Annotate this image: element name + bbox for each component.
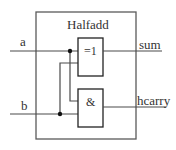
input-a-label: a [20,34,26,49]
input-b-label: b [21,98,28,113]
junction-a-dot [68,49,72,53]
b-branch-to-xor-wire [60,63,78,114]
xor-gate-symbol: =1 [84,44,97,58]
a-branch-to-and-wire [70,51,78,101]
junction-b-dot [58,112,62,116]
module-title: Halfadd [67,17,109,32]
output-hcarry-label: hcarry [137,93,171,108]
output-sum-label: sum [139,37,161,52]
and-gate-symbol: & [86,95,96,109]
half-adder-diagram: Halfadd a b =1 & sum hcarry [0,0,176,150]
